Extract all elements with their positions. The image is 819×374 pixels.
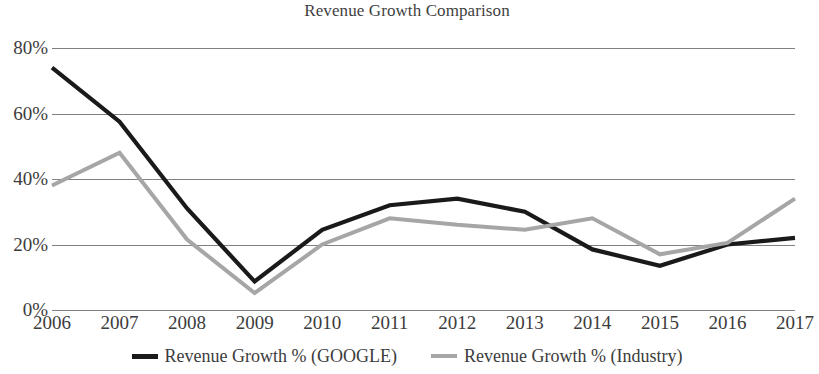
x-axis-tick-label: 2010 bbox=[287, 313, 357, 334]
x-axis-tick-label: 2015 bbox=[625, 313, 695, 334]
legend-item[interactable]: Revenue Growth % (Industry) bbox=[431, 347, 682, 365]
series-line bbox=[52, 153, 795, 293]
x-axis-tick-label: 2011 bbox=[355, 313, 425, 334]
x-axis-tick-label: 2016 bbox=[692, 313, 762, 334]
legend-swatch-icon bbox=[132, 354, 158, 359]
y-axis-tick-label: 80% bbox=[0, 38, 48, 57]
series-lines bbox=[52, 48, 795, 310]
legend-label: Revenue Growth % (Industry) bbox=[464, 347, 682, 365]
x-axis-tick-label: 2014 bbox=[557, 313, 627, 334]
x-axis-tick-label: 2009 bbox=[220, 313, 290, 334]
chart-title: Revenue Growth Comparison bbox=[0, 1, 814, 21]
legend-label: Revenue Growth % (GOOGLE) bbox=[165, 347, 397, 365]
x-axis-tick-label: 2006 bbox=[17, 313, 87, 334]
y-axis-tick-label: 60% bbox=[0, 104, 48, 123]
chart-legend: Revenue Growth % (GOOGLE)Revenue Growth … bbox=[0, 347, 814, 365]
legend-item[interactable]: Revenue Growth % (GOOGLE) bbox=[132, 347, 397, 365]
y-axis-tick-label: 20% bbox=[0, 235, 48, 254]
x-axis-tick-label: 2007 bbox=[85, 313, 155, 334]
gridline-0pct bbox=[52, 310, 795, 311]
y-axis-tick-label: 40% bbox=[0, 169, 48, 188]
x-axis-tick-label: 2013 bbox=[490, 313, 560, 334]
plot-area bbox=[52, 48, 795, 310]
x-axis-tick-label: 2008 bbox=[152, 313, 222, 334]
legend-swatch-icon bbox=[431, 354, 457, 358]
x-axis-tick-label: 2012 bbox=[422, 313, 492, 334]
x-axis-tick-labels: 2006200720082009201020112012201320142015… bbox=[52, 313, 795, 343]
x-axis-tick-label: 2017 bbox=[760, 313, 819, 334]
